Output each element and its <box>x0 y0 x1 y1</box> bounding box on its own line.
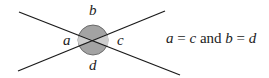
angle-label-c: c <box>117 33 124 48</box>
eq-var-a: a <box>166 30 174 46</box>
eq-var-b: b <box>225 30 233 46</box>
angle-label-a: a <box>63 33 71 48</box>
equation-text: a = c and b = d <box>166 31 256 46</box>
eq-and: and <box>196 30 225 46</box>
eq-equals-1: = <box>174 30 190 46</box>
angle-label-d: d <box>89 58 97 73</box>
vertical-angles-figure: b a c d a = c and b = d <box>0 0 269 78</box>
angle-label-b: b <box>89 3 97 18</box>
eq-var-d: d <box>249 30 257 46</box>
line-1 <box>19 12 180 75</box>
eq-equals-2: = <box>233 30 249 46</box>
